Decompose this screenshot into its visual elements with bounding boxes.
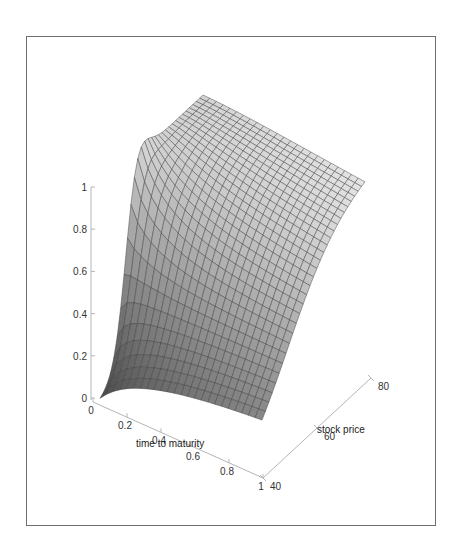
x-axis-label: time to maturity [136,438,204,449]
x-tick-label: 0.6 [186,451,200,462]
z-tick-label: 0.6 [73,266,87,277]
z-tick-label: 0.2 [73,351,87,362]
y-tick-label: 40 [270,481,282,492]
z-tick-label: 0.4 [73,309,87,320]
x-tick-label: 0.2 [118,420,132,431]
z-axis: 00.20.40.60.81 [73,182,95,404]
x-tick-label: 0.8 [220,466,234,477]
z-tick-label: 0 [81,393,87,404]
z-tick-label: 0.8 [73,224,87,235]
z-tick-label: 1 [81,182,87,193]
x-axis: 00.20.40.60.81 time to maturity [88,398,264,492]
surface-plot: 00.20.40.60.81 00.20.40.60.81 time to ma… [0,0,459,558]
y-tick-label: 80 [378,381,390,392]
x-tick-label: 0 [88,405,94,416]
surface [100,95,365,420]
y-axis-label: stock price [317,424,365,435]
x-tick-label: 1 [258,481,264,492]
y-axis: 406080 stock price [260,375,390,492]
